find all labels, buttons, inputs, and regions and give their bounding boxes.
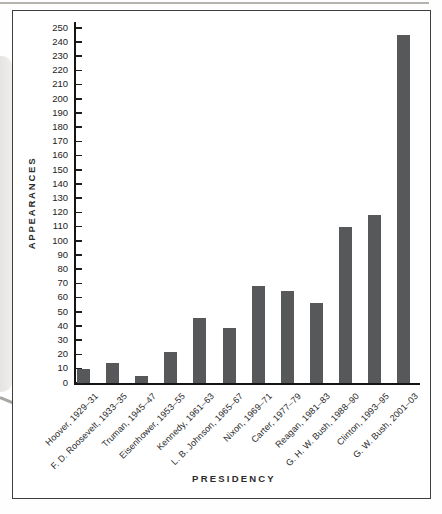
bar	[339, 227, 352, 383]
y-axis-tick	[76, 212, 82, 214]
y-axis-tick-label: 100	[34, 235, 68, 247]
bar	[397, 35, 410, 383]
y-axis-tick-label: 170	[34, 135, 68, 147]
bar	[77, 369, 90, 383]
bar	[223, 328, 236, 383]
x-axis-title: PRESIDENCY	[192, 473, 276, 484]
bar	[135, 376, 148, 383]
y-axis-tick	[76, 112, 82, 114]
bar	[281, 291, 294, 383]
bar	[164, 352, 177, 383]
y-axis-tick	[76, 297, 82, 299]
y-axis-tick-label: 150	[34, 164, 68, 176]
y-axis-tick	[76, 55, 82, 57]
y-axis-tick	[76, 311, 82, 313]
y-axis-tick	[76, 339, 82, 341]
y-axis-tick	[76, 325, 82, 327]
y-axis-tick	[76, 126, 82, 128]
y-axis-title: APPEARANCES	[26, 157, 37, 250]
y-axis-tick	[76, 254, 82, 256]
y-axis-tick-label: 200	[34, 93, 68, 105]
y-axis-tick-label: 60	[34, 291, 68, 303]
y-axis-tick-label: 220	[34, 64, 68, 76]
page-edge-tab	[0, 56, 12, 392]
bar	[252, 286, 265, 383]
bar	[193, 318, 206, 383]
y-axis-tick-label: 140	[34, 178, 68, 190]
y-axis-tick	[76, 197, 82, 199]
y-axis-tick	[76, 226, 82, 228]
bar	[310, 303, 323, 383]
y-axis-tick-label: 120	[34, 206, 68, 218]
y-axis-tick	[76, 141, 82, 143]
y-axis-tick-label: 180	[34, 121, 68, 133]
y-axis-tick-label: 250	[34, 22, 68, 34]
y-axis-tick-label: 190	[34, 107, 68, 119]
bar-chart-plot-area: 0102030405060708090100110120130140150160…	[74, 22, 420, 385]
y-axis-tick	[76, 183, 82, 185]
y-axis-tick-label: 230	[34, 50, 68, 62]
y-axis-tick-label: 40	[34, 320, 68, 332]
y-axis-tick	[76, 84, 82, 86]
y-axis-tick	[76, 240, 82, 242]
y-axis-tick-label: 0	[34, 377, 68, 389]
y-axis-tick	[76, 70, 82, 72]
y-axis-tick-label: 10	[34, 362, 68, 374]
y-axis-tick-label: 20	[34, 348, 68, 360]
y-axis-tick	[76, 41, 82, 43]
y-axis-tick	[76, 354, 82, 356]
bar	[368, 215, 381, 383]
y-axis-tick-label: 50	[34, 306, 68, 318]
y-axis-tick	[76, 155, 82, 157]
page-top-rule	[0, 2, 429, 4]
y-axis-tick	[76, 283, 82, 285]
y-axis-tick-label: 160	[34, 149, 68, 161]
y-axis-tick	[76, 268, 82, 270]
y-axis-tick-label: 90	[34, 249, 68, 261]
y-axis-tick-label: 130	[34, 192, 68, 204]
y-axis-tick	[76, 98, 82, 100]
scanned-page: 0102030405060708090100110120130140150160…	[0, 0, 442, 514]
y-axis-tick	[76, 27, 82, 29]
bar	[106, 363, 119, 383]
y-axis-tick-label: 210	[34, 78, 68, 90]
y-axis-tick-label: 110	[34, 220, 68, 232]
y-axis-tick-label: 80	[34, 263, 68, 275]
y-axis-tick-label: 240	[34, 36, 68, 48]
y-axis-tick	[76, 169, 82, 171]
y-axis-tick-label: 70	[34, 277, 68, 289]
y-axis-tick-label: 30	[34, 334, 68, 346]
